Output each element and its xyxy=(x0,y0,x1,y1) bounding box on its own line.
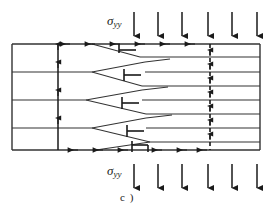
lattice-plane-connector xyxy=(146,115,172,118)
dislocation-pileup-figure: σyy σyy c ) xyxy=(0,0,267,212)
dislocation-symbol-4 xyxy=(127,125,144,137)
right-lattice-plane-group xyxy=(140,57,260,142)
lattice-plane-connector xyxy=(142,87,168,90)
dislocation-wedge-group xyxy=(86,44,150,150)
top-stress-arrow-group xyxy=(134,12,257,36)
figure-canvas xyxy=(0,0,267,212)
dislocation-symbol-3 xyxy=(122,97,139,109)
dislocation-wedge-upper xyxy=(96,142,150,150)
sigma-top-subscript: yy xyxy=(113,19,121,29)
sigma-yy-bottom-label: σyy xyxy=(107,163,122,179)
dislocation-wedge-upper xyxy=(92,118,146,128)
bottom-stress-arrow-group xyxy=(134,164,257,188)
lattice-plane-connector xyxy=(145,59,170,62)
dislocation-wedge-upper xyxy=(86,90,142,100)
crystal-box xyxy=(12,44,260,150)
sigma-bottom-subscript: yy xyxy=(113,169,121,179)
dislocation-wedge-lower xyxy=(92,72,142,86)
left-lattice-plane-group xyxy=(12,72,92,128)
panel-caption: c ) xyxy=(120,191,134,203)
lattice-plane-connector-group xyxy=(142,59,172,118)
dislocation-wedge-upper xyxy=(92,62,145,72)
dislocation-wedge-lower xyxy=(92,128,150,142)
dislocation-symbol-2 xyxy=(124,69,141,81)
sigma-yy-top-label: σyy xyxy=(107,13,122,29)
dislocation-wedge-lower xyxy=(86,100,146,114)
